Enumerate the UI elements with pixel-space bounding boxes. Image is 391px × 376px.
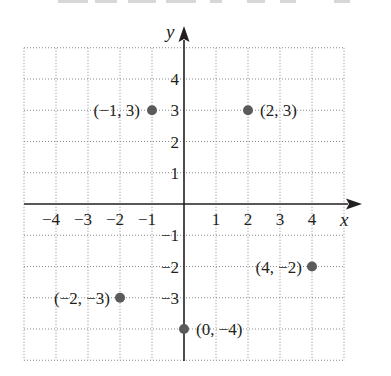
- point-label: (2, 3): [260, 101, 297, 120]
- data-point: (−1, 3): [94, 101, 157, 120]
- y-axis-label: y: [164, 21, 175, 42]
- y-tick-label: 2: [171, 133, 180, 152]
- y-tick-label: 1: [171, 164, 180, 183]
- x-tick-labels: −4−3−2−11234: [42, 210, 317, 229]
- y-tick-label: −2: [161, 258, 179, 277]
- y-tick-labels: 4321−1−2−3: [161, 70, 180, 308]
- x-tick-label: −4: [42, 210, 61, 229]
- x-tick-label: 4: [308, 210, 317, 229]
- y-axis-arrow-icon: [179, 26, 190, 42]
- point-label: (4, −2): [256, 258, 302, 277]
- x-tick-label: −2: [106, 210, 124, 229]
- x-axis-label: x: [339, 209, 349, 230]
- point-label: (0, −4): [196, 320, 242, 339]
- data-point: (4, −2): [256, 258, 317, 277]
- x-tick-label: −3: [74, 210, 92, 229]
- y-tick-label: −3: [161, 289, 179, 308]
- coordinate-plane: x y −4−3−2−11234 4321−1−2−3 (−1, 3)(2, 3…: [0, 0, 391, 376]
- point-label: (−2, −3): [54, 289, 110, 308]
- x-tick-label: −1: [138, 210, 156, 229]
- x-tick-label: 2: [244, 210, 253, 229]
- point-marker-icon: [179, 324, 189, 334]
- data-point: (0, −4): [179, 320, 242, 339]
- point-label: (−1, 3): [94, 101, 140, 120]
- x-axis-arrow-icon: [346, 199, 362, 210]
- x-tick-label: 1: [212, 210, 221, 229]
- axes: [24, 26, 362, 361]
- x-tick-label: 3: [276, 210, 285, 229]
- y-tick-label: 4: [171, 70, 180, 89]
- y-tick-label: 3: [171, 101, 180, 120]
- point-marker-icon: [243, 105, 253, 115]
- y-tick-label: −1: [161, 226, 179, 245]
- point-marker-icon: [115, 293, 125, 303]
- point-marker-icon: [307, 262, 317, 272]
- data-point: (2, 3): [243, 101, 297, 120]
- point-marker-icon: [147, 105, 157, 115]
